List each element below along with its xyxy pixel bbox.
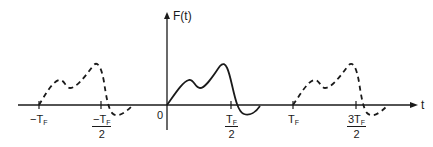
tick-label-three-half-tf: 3TF 2 (347, 114, 366, 140)
tick-label-neg-half-tf: −TF 2 (92, 114, 111, 140)
tick-denominator: 2 (99, 127, 105, 140)
t-axis-arrow-icon (410, 102, 418, 108)
origin-label: 0 (157, 110, 163, 121)
tick-sub: F (43, 119, 47, 126)
tick-label-neg-tf: −TF (30, 114, 47, 125)
tick-denominator: 2 (354, 127, 360, 140)
x-axis-label: t (421, 99, 424, 111)
f-axis-arrow-icon (164, 12, 170, 19)
tick-label-half-tf: TF 2 (225, 114, 238, 140)
tick-sub: F (295, 119, 299, 126)
tick-numerator: 3TF (347, 114, 366, 127)
tick-main: T (288, 113, 295, 125)
waveform-diagram (0, 0, 433, 147)
tick-numerator: −TF (92, 114, 111, 127)
tick-numerator: TF (225, 114, 238, 127)
y-axis-label: F(t) (173, 10, 192, 22)
tick-label-tf: TF (288, 114, 299, 125)
tick-denominator: 2 (228, 127, 234, 140)
tick-main: −T (30, 113, 43, 125)
curve-previous-period (39, 64, 132, 115)
curve-next-period (293, 64, 387, 115)
curve-primary-period (167, 64, 260, 114)
